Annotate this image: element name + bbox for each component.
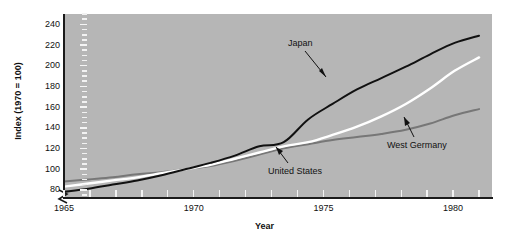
x-tick-mark xyxy=(297,190,298,197)
y-tick-mark xyxy=(80,86,87,88)
y-axis-line xyxy=(63,14,65,198)
y-tick-mark xyxy=(80,24,87,26)
x-tick-label: 1980 xyxy=(443,203,463,213)
y-tick-mark xyxy=(80,65,87,67)
y-minor-tick-mark xyxy=(82,112,87,114)
y-minor-tick-mark xyxy=(82,80,87,82)
y-tick-label: 200 xyxy=(32,61,60,70)
y-axis-title-wrapper: Index (1970 = 100) xyxy=(0,0,1,1)
series-label-west-germany: West Germany xyxy=(387,140,447,150)
x-tick-mark xyxy=(349,190,350,197)
y-minor-tick-mark xyxy=(82,158,87,160)
y-minor-tick-mark xyxy=(82,117,87,119)
y-axis-title: Index (1970 = 100) xyxy=(13,36,23,166)
y-minor-tick-mark xyxy=(82,174,87,176)
y-minor-tick-mark xyxy=(82,13,87,15)
y-minor-tick-mark xyxy=(82,75,87,77)
y-minor-tick-mark xyxy=(82,184,87,186)
y-tick-mark xyxy=(80,44,87,46)
x-tick-label: 1965 xyxy=(54,203,74,213)
y-tick-label: 120 xyxy=(32,144,60,153)
y-minor-tick-mark xyxy=(82,101,87,103)
y-minor-tick-mark xyxy=(82,55,87,57)
y-tick-label: 240 xyxy=(32,20,60,29)
y-tick-mark xyxy=(80,127,87,129)
y-tick-label: 100 xyxy=(32,165,60,174)
y-tick-mark xyxy=(80,168,87,170)
y-minor-tick-mark xyxy=(82,49,87,51)
y-minor-tick-mark xyxy=(82,143,87,145)
y-tick-mark xyxy=(80,106,87,108)
x-tick-mark xyxy=(167,190,168,197)
x-tick-mark xyxy=(375,190,376,197)
x-tick-mark xyxy=(323,190,324,197)
x-axis-ticks: 1965197019751980 xyxy=(0,203,508,219)
y-minor-tick-mark xyxy=(82,34,87,36)
y-minor-tick-mark xyxy=(82,91,87,93)
y-minor-tick-mark xyxy=(82,153,87,155)
x-tick-mark xyxy=(401,190,402,197)
y-minor-tick-mark xyxy=(82,137,87,139)
y-minor-tick-mark xyxy=(82,179,87,181)
x-tick-mark xyxy=(426,190,427,197)
x-tick-mark xyxy=(245,190,246,197)
y-tick-mark xyxy=(80,148,87,150)
x-tick-mark xyxy=(271,190,272,197)
x-axis-line xyxy=(63,197,493,199)
y-tick-label: 80 xyxy=(32,185,60,194)
x-tick-mark xyxy=(115,190,116,197)
y-tick-mark xyxy=(80,189,87,191)
x-tick-label: 1975 xyxy=(313,203,333,213)
y-minor-tick-mark xyxy=(82,122,87,124)
y-minor-tick-mark xyxy=(82,29,87,31)
x-axis-title: Year xyxy=(255,221,274,231)
x-tick-mark xyxy=(219,190,220,197)
y-tick-label: 220 xyxy=(32,41,60,50)
y-tick-label: 160 xyxy=(32,103,60,112)
series-label-united-states: United States xyxy=(268,166,322,176)
y-minor-tick-mark xyxy=(82,60,87,62)
x-tick-mark xyxy=(141,190,142,197)
x-tick-mark xyxy=(63,190,64,197)
x-tick-mark xyxy=(478,190,479,197)
y-tick-label: 180 xyxy=(32,82,60,91)
x-tick-label: 1970 xyxy=(184,203,204,213)
y-minor-tick-mark xyxy=(82,163,87,165)
x-tick-mark xyxy=(452,190,453,197)
y-minor-tick-mark xyxy=(82,18,87,20)
x-tick-mark xyxy=(193,190,194,197)
chart-figure: 80100120140160180200220240 1965197019751… xyxy=(0,0,508,244)
y-minor-tick-mark xyxy=(82,194,87,196)
series-label-japan: Japan xyxy=(288,38,313,48)
y-minor-tick-mark xyxy=(82,70,87,72)
y-minor-tick-mark xyxy=(82,132,87,134)
y-minor-tick-mark xyxy=(82,39,87,41)
y-minor-tick-mark xyxy=(82,96,87,98)
x-tick-mark xyxy=(89,190,90,197)
y-tick-label: 140 xyxy=(32,123,60,132)
